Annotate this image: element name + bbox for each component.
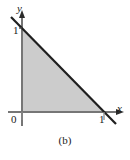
- figure-caption: (b): [0, 134, 130, 146]
- x-axis-label: x: [117, 103, 122, 114]
- origin-label: 0: [11, 114, 17, 125]
- y-axis-tick-label-1: 1: [13, 25, 19, 36]
- x-axis-tick-label-1: 1: [99, 114, 105, 125]
- coordinate-plot-svg: [0, 0, 130, 130]
- y-axis-label: y: [17, 3, 22, 14]
- figure-plot-area: y x 1 0 1: [0, 0, 130, 130]
